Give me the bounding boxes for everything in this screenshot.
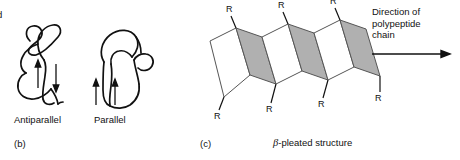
arrow-up-left-head [93, 79, 98, 86]
r-bond-bottom-1 [219, 97, 224, 110]
r-bond-top-1 [231, 16, 236, 28]
r-bond-bottom-2 [271, 84, 276, 103]
panel-c-title-text: -pleated structure [278, 137, 352, 148]
panel-c-title: β-pleated structure [273, 137, 352, 149]
pleated-sheet [210, 20, 380, 97]
r-bond-top-3 [335, 8, 340, 20]
r-group-bottom-2: R [266, 104, 273, 116]
r-bond-bottom-3 [323, 80, 328, 98]
arrow-up-right-head [112, 79, 117, 86]
r-group-top-3: R [330, 0, 337, 8]
r-group-bottom-3: R [318, 99, 325, 111]
panel-c-caption: (c) [200, 138, 211, 150]
antiparallel-arrows [35, 60, 59, 92]
parallel-label: Parallel [94, 114, 126, 126]
parallel-coil-drawing [101, 30, 153, 108]
direction-note: Direction of polypeptide chain [372, 6, 421, 41]
r-group-top-2: R [278, 0, 285, 12]
arrow-down-head [53, 85, 59, 92]
r-group-top-1: R [226, 4, 233, 16]
arrow-up-head [35, 60, 41, 67]
r-group-bottom-1: R [214, 111, 221, 123]
direction-arrow-head [441, 51, 450, 58]
direction-arrow-icon [372, 51, 450, 58]
r-bond-top-2 [283, 12, 288, 24]
beta-sheet-figure: d [0, 0, 460, 160]
r-group-bottom-4: R [375, 93, 382, 105]
panel-b-caption: (b) [14, 138, 26, 150]
antiparallel-label: Antiparallel [14, 114, 61, 126]
